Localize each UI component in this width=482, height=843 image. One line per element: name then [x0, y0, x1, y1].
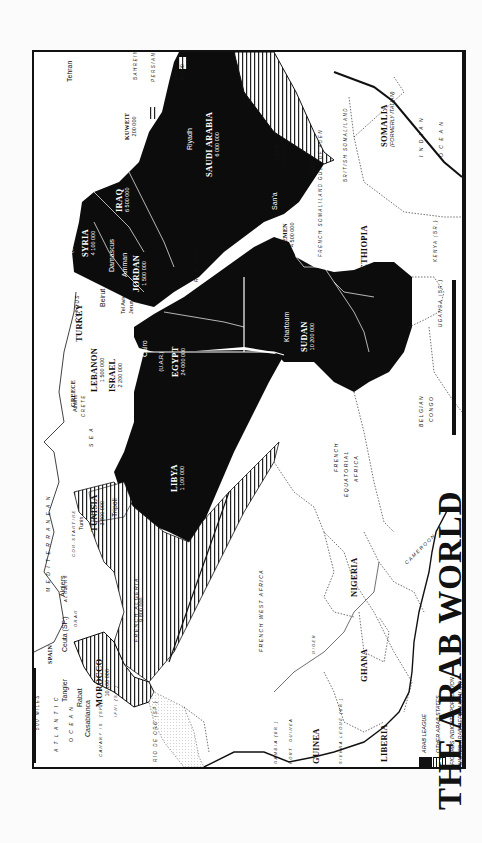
label-greece: GREECE — [62, 380, 78, 407]
label-tunisia: TUNISIA3 800 000 — [84, 494, 106, 532]
city-tehran: Tehran — [59, 61, 75, 82]
label-saudi-arabia: SAUDI ARABIA6 000 000 — [199, 112, 221, 177]
scale-label: 500 MILES — [36, 694, 41, 730]
label-jordan: JORDAN1 500 000 — [126, 255, 148, 292]
label-port-guinea: PORT. GUINEA — [289, 718, 293, 764]
legend-swatch-arab-league — [419, 757, 432, 769]
city-cairo: Cairo — [134, 340, 150, 357]
map-frame: Tehran BAHREIN PERSIAN GULF QATAR35 000 … — [32, 50, 466, 769]
label-gulf-of-aden: GULF OF ADEN — [319, 129, 324, 180]
label-bahrein: BAHREIN — [134, 50, 139, 80]
label-ethiopia: ETHIOPIA — [354, 225, 370, 270]
label-sierra-leone: SIERRA LEONE (BR.) — [339, 697, 343, 764]
label-nigeria: NIGERIA — [344, 558, 360, 597]
label-aden: ADEN800 000 — [266, 142, 288, 162]
label-somalia: SOMALIA(FORMERLY ITALIAN) — [374, 91, 396, 147]
label-french-eq: FRENCH — [334, 442, 339, 472]
label-algeria: FRENCH ALGERIA9 800 000 — [134, 577, 145, 642]
title-rule — [452, 280, 456, 435]
label-eq-africa: AFRICA — [354, 455, 359, 482]
label-egypt: (U.A.R.)EGYPT24 000 000 — [159, 346, 186, 377]
label-sea: S E A — [89, 427, 94, 447]
label-sudan: SUDAN10 200 000 — [294, 321, 316, 352]
label-congo: CONGO — [429, 396, 434, 422]
city-sana: San'a — [264, 192, 280, 210]
label-atlantic: A T L A N T I C — [54, 696, 59, 752]
city-jerusalem: Jerusalem — [120, 289, 136, 314]
label-israel: ISRAEL2 200 000 — [102, 359, 124, 392]
label-constantine: CON-STANTINE — [72, 509, 76, 557]
label-french-west-africa: FRENCH WEST AFRICA — [259, 569, 264, 652]
label-rio-de-oro: RIO DE ORO (SP.) — [154, 700, 159, 762]
label-british-somaliland: BRITISH SOMALILAND — [344, 107, 349, 182]
label-indian: I N D I A N — [419, 117, 424, 157]
label-cyprus: CYPRUS — [76, 294, 81, 322]
label-french-somaliland: FRENCH SOMALILAND — [319, 182, 324, 257]
city-beirut: Beirut — [92, 289, 108, 307]
label-indian-ocean: O C E A N — [439, 121, 444, 157]
label-yemen: YEMEN4 500 000 — [274, 223, 296, 247]
kuweit-region — [149, 107, 156, 119]
label-spain: SPAIN — [39, 645, 55, 664]
label-oran: ORAN — [74, 609, 78, 627]
label-qatar: QATAR35 000 — [164, 63, 186, 82]
label-syria: (U.A.R.)SYRIA4 100 000 — [69, 229, 96, 257]
label-liberia: LIBERIA — [374, 724, 390, 762]
label-morocco: MOROCCO10 100 000 — [89, 659, 111, 707]
city-baghdad: Baghdad — [94, 159, 110, 187]
label-niger: NIGER — [312, 634, 316, 654]
label-mediterranean: M E D I T E R R A N E A N — [46, 495, 51, 592]
legend-label-arab-league: ARAB LEAGUE — [421, 714, 427, 753]
label-equatorial: EQUATORIAL — [344, 450, 349, 497]
city-riyadh: Riyadh — [179, 128, 195, 150]
label-libya: LIBYA1 100 000 — [164, 464, 186, 492]
label-gambia: GAMBIA (BR.) — [274, 720, 278, 764]
label-ghana: GHANA — [354, 649, 370, 682]
label-uganda: UGANDA (BR.) — [439, 278, 444, 327]
city-aden: Aden — [302, 161, 318, 177]
city-ceuta: Ceuta (SP.) — [54, 616, 70, 652]
label-red-sea: RED SEA — [194, 250, 199, 282]
label-canary: CANARY IS. (SP.) — [99, 701, 103, 757]
label-crete: CRETE — [82, 394, 87, 417]
label-belgian: BELGIAN — [419, 395, 424, 427]
label-kuweit: KUWEIT200 000 — [116, 113, 138, 140]
city-tripoli: Tripoli — [104, 498, 120, 517]
label-persian-gulf: PERSIAN GULF — [152, 50, 157, 82]
map-title: THE ARAB WORLD — [432, 490, 469, 810]
city-khartoum: Khartoum — [276, 312, 292, 342]
label-ifni: IFNI (SP.) — [114, 685, 118, 717]
label-algiers-dept: ALGIERS — [64, 574, 68, 602]
label-atlantic-ocean: O C E A N — [69, 706, 74, 742]
label-guinea: GUINEA — [306, 728, 322, 764]
label-iraq: IRAQ6 500 000 — [109, 188, 131, 212]
label-kenya: KENYA (BR.) — [434, 219, 439, 262]
